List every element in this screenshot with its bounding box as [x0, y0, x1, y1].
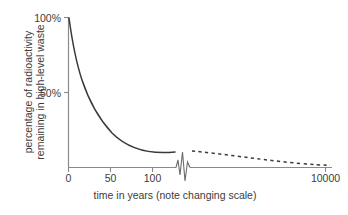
y-axis-caption-line-1: percentage of radioactivity — [22, 30, 34, 153]
radioactivity-decay-chart: 100% 50% 0 50 100 10000 time in years (n… — [0, 0, 348, 215]
x-axis-caption: time in years (note changing scale) — [94, 189, 257, 201]
decay-curve-dashed — [192, 151, 330, 165]
y-tick-label-100: 100% — [34, 12, 61, 24]
y-axis-caption-line-2: remaining in high-level waste — [34, 24, 46, 160]
x-tick-label-100: 100 — [144, 172, 162, 184]
x-tick-label-10000: 10000 — [311, 172, 340, 184]
decay-curve-solid — [69, 18, 175, 153]
chart-canvas: 100% 50% 0 50 100 10000 time in years (n… — [0, 0, 348, 215]
x-tick-label-50: 50 — [105, 172, 117, 184]
x-tick-label-0: 0 — [66, 172, 72, 184]
axis-break-zigzag-icon — [176, 152, 190, 181]
